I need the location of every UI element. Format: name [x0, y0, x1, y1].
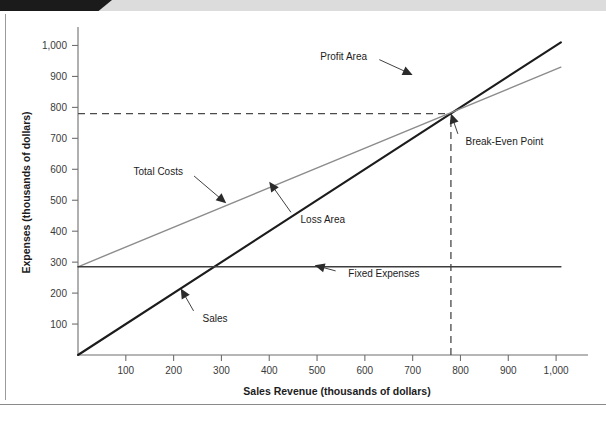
x-tick-label: 200: [165, 365, 182, 376]
y-tick-label: 500: [50, 195, 67, 206]
y-tick-label: 100: [50, 319, 67, 330]
annotation-leader-line: [454, 122, 458, 134]
y-tick-label: 900: [50, 71, 67, 82]
x-tick-label: 700: [404, 365, 421, 376]
x-tick-label: 500: [309, 365, 326, 376]
annotation-label: Break-Even Point: [465, 136, 543, 147]
y-tick-label: 200: [50, 288, 67, 299]
annotation-sales: Sales: [181, 288, 228, 323]
annotation-label: Sales: [203, 313, 228, 324]
annotation-arrowhead: [315, 263, 326, 272]
y-axis-title: Expenses (thousands of dollars): [20, 111, 32, 273]
y-axis-tick-labels: 1002003004005006007008009001,000: [42, 40, 67, 330]
x-tick-label: 900: [500, 365, 517, 376]
x-tick-label: 600: [357, 365, 374, 376]
annotation-label: Total Costs: [133, 166, 182, 177]
x-tick-label: 1,000: [544, 365, 569, 376]
annotation-arrowhead: [450, 114, 459, 125]
annotation-leader-line: [185, 296, 193, 311]
annotation-leader-line: [379, 60, 404, 72]
series-line-sales: [78, 42, 561, 355]
y-tick-label: 1,000: [42, 40, 67, 51]
annotation-label: Fixed Expenses: [348, 268, 419, 279]
y-tick-label: 800: [50, 102, 67, 113]
annotation-leader-line: [323, 268, 335, 271]
annotation-total-costs: Total Costs: [133, 166, 226, 204]
y-axis-ticks: [72, 45, 78, 324]
annotation-fixed-expenses: Fixed Expenses: [315, 263, 420, 279]
data-series: [78, 42, 561, 355]
annotation-leader-line: [274, 189, 290, 212]
x-tick-label: 300: [213, 365, 230, 376]
annotation-leader-line: [194, 176, 219, 197]
x-axis-ticks: [126, 355, 556, 361]
y-tick-label: 300: [50, 257, 67, 268]
x-axis-tick-labels: 1002003004005006007008009001,000: [117, 365, 569, 376]
x-tick-label: 800: [452, 365, 469, 376]
break-even-chart: 1002003004005006007008009001,000 1002003…: [0, 0, 606, 423]
chart-page: 1002003004005006007008009001,000 1002003…: [0, 0, 606, 423]
annotation-label: Profit Area: [320, 51, 367, 62]
annotation-arrowhead: [216, 193, 227, 203]
x-tick-label: 100: [117, 365, 134, 376]
annotation-break-even: Break-Even Point: [450, 114, 544, 148]
annotation-profit-area: Profit Area: [320, 51, 412, 75]
y-tick-label: 600: [50, 164, 67, 175]
annotation-arrowhead: [181, 288, 190, 299]
y-tick-label: 700: [50, 133, 67, 144]
annotation-label: Loss Area: [301, 214, 346, 225]
y-tick-label: 400: [50, 226, 67, 237]
annotation-arrowhead: [269, 182, 279, 193]
x-tick-label: 400: [261, 365, 278, 376]
x-axis-title: Sales Revenue (thousands of dollars): [243, 385, 430, 397]
